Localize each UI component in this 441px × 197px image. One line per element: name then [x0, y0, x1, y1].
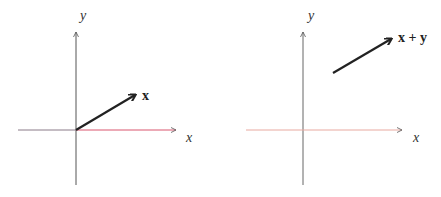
left-x-axis-label: x [185, 130, 193, 145]
vector-x-arrow [76, 95, 135, 130]
vector-diagram: y x x y x x + y [0, 0, 441, 197]
right-y-axis-label: y [306, 8, 315, 23]
vector-x-label: x [142, 88, 149, 103]
left-panel: y x x [18, 8, 193, 185]
right-x-axis-label: x [412, 130, 420, 145]
right-panel: y x x + y [246, 8, 427, 185]
vector-x-plus-y-label: x + y [398, 30, 427, 45]
vector-x-plus-y-arrow [333, 39, 391, 73]
left-y-axis-label: y [78, 8, 87, 23]
